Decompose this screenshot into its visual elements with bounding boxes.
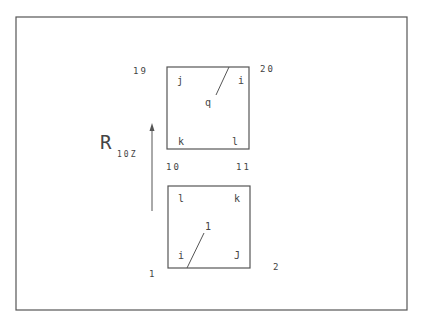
local-axis-label: i bbox=[238, 75, 246, 86]
node-number-label: 10 bbox=[166, 162, 181, 172]
local-axis-label: k bbox=[178, 136, 186, 147]
element-number-label: q bbox=[205, 97, 213, 108]
node-number-label: 19 bbox=[133, 66, 148, 76]
element-top: qjikl19201011 bbox=[133, 64, 275, 172]
local-axis-label: J bbox=[234, 250, 242, 261]
element-number-label: 1 bbox=[205, 221, 213, 232]
arrow-up-icon bbox=[150, 123, 155, 131]
node-number-label: 2 bbox=[273, 262, 280, 272]
rotation-label-main: R bbox=[100, 131, 112, 153]
local-axis-label: j bbox=[177, 75, 185, 86]
rotation-label-subscript: 10Z bbox=[117, 150, 137, 159]
local-axis-label: l bbox=[232, 136, 240, 147]
rotation-indicator: R 10Z bbox=[100, 123, 155, 211]
node-number-label: 11 bbox=[236, 162, 251, 172]
local-axis-label: i bbox=[178, 250, 186, 261]
node-number-label: 1 bbox=[149, 269, 156, 279]
local-axis-label: k bbox=[234, 193, 242, 204]
local-axis-label: l bbox=[178, 193, 186, 204]
diagram-canvas: R 10Z 1lkiJ12qjikl19201011 bbox=[0, 0, 427, 325]
node-number-label: 20 bbox=[260, 64, 275, 74]
element-leader-line bbox=[216, 67, 229, 95]
element-group: 1lkiJ12qjikl19201011 bbox=[133, 64, 280, 279]
element-leader-line bbox=[187, 233, 204, 268]
element-bottom: 1lkiJ12 bbox=[149, 186, 280, 279]
outer-frame bbox=[16, 17, 407, 310]
